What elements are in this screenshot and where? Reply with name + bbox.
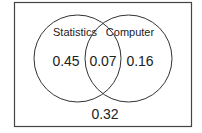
- statistics-label: Statistics: [53, 26, 98, 38]
- computer-only-value: 0.16: [126, 53, 153, 69]
- statistics-only-value: 0.45: [52, 53, 79, 69]
- venn-diagram: Statistics Computer 0.45 0.07 0.16 0.32: [0, 0, 202, 133]
- computer-label: Computer: [106, 26, 155, 38]
- intersection-value: 0.07: [89, 53, 116, 69]
- outside-value: 0.32: [91, 106, 118, 122]
